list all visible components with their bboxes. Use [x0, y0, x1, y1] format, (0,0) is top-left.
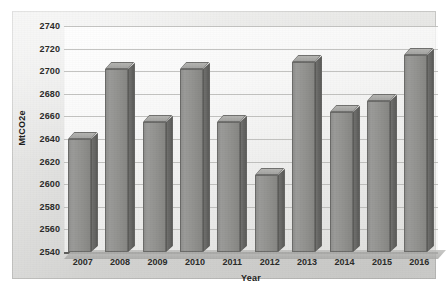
bar-front-face: [143, 122, 166, 252]
bar-side-face: [390, 94, 397, 252]
bar-2011[interactable]: [217, 122, 240, 252]
x-tick-2013: 2013: [297, 257, 317, 267]
plot-area: [64, 26, 438, 252]
x-axis-title: Year: [64, 273, 438, 283]
bar-side-face: [166, 116, 173, 252]
bar-front-face: [255, 175, 278, 252]
bar-side-face: [278, 169, 285, 252]
bar-front-face: [68, 139, 91, 252]
bar-2012[interactable]: [255, 175, 278, 252]
y-tick-2600: 2600: [40, 179, 60, 189]
x-tick-2014: 2014: [334, 257, 354, 267]
gridline-2740: [64, 26, 438, 27]
bar-front-face: [105, 69, 128, 252]
y-tick-2560: 2560: [40, 224, 60, 234]
y-tick-2580: 2580: [40, 202, 60, 212]
bar-side-face: [128, 63, 135, 252]
x-tick-2007: 2007: [73, 257, 93, 267]
x-tick-2011: 2011: [223, 257, 243, 267]
bar-side-face: [203, 63, 210, 252]
x-tick-2012: 2012: [260, 257, 280, 267]
gridline-2720: [64, 49, 438, 50]
y-tick-2540: 2540: [40, 247, 60, 257]
bar-2013[interactable]: [292, 62, 315, 252]
bar-front-face: [404, 55, 427, 252]
y-axis-tick-labels: 2740272027002680266026402620260025802560…: [12, 11, 60, 279]
bar-2015[interactable]: [367, 101, 390, 252]
bar-front-face: [367, 101, 390, 252]
bar-2007[interactable]: [68, 139, 91, 252]
bar-2016[interactable]: [404, 55, 427, 252]
bar-side-face: [315, 56, 322, 252]
bar-front-face: [330, 112, 353, 252]
chart-panel: MtCO2e 274027202700268026602640262026002…: [12, 11, 436, 279]
y-tick-2620: 2620: [40, 157, 60, 167]
x-axis-tick-labels: 2007200820092010201120122013201420152016: [64, 257, 438, 271]
bar-front-face: [180, 69, 203, 252]
x-tick-2010: 2010: [185, 257, 205, 267]
y-tick-2700: 2700: [40, 66, 60, 76]
bar-2014[interactable]: [330, 112, 353, 252]
bar-side-face: [91, 133, 98, 252]
y-tick-2680: 2680: [40, 89, 60, 99]
y-tick-2640: 2640: [40, 134, 60, 144]
y-tick-2720: 2720: [40, 44, 60, 54]
y-tick-2740: 2740: [40, 21, 60, 31]
x-tick-2016: 2016: [409, 257, 429, 267]
bar-2008[interactable]: [105, 69, 128, 252]
y-tick-2660: 2660: [40, 111, 60, 121]
bar-side-face: [240, 116, 247, 252]
bar-side-face: [427, 49, 434, 252]
bar-2010[interactable]: [180, 69, 203, 252]
bar-side-face: [353, 106, 360, 252]
bar-front-face: [292, 62, 315, 252]
x-tick-2009: 2009: [147, 257, 167, 267]
x-tick-2008: 2008: [110, 257, 130, 267]
bar-front-face: [217, 122, 240, 252]
x-tick-2015: 2015: [372, 257, 392, 267]
bar-2009[interactable]: [143, 122, 166, 252]
